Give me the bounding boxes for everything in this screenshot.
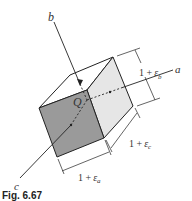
a-dim-ext-left (58, 159, 64, 174)
origin-label: Q (73, 95, 82, 109)
b-dim-line-top (135, 50, 141, 63)
b-axis-line (54, 22, 80, 84)
b-dim-ext-top (117, 48, 140, 56)
c-axis-dot (70, 124, 72, 126)
a-axis-label: a (175, 63, 181, 75)
c-dim-ext-top (135, 108, 140, 118)
a-dim-line (62, 152, 109, 171)
a-dim-label: 1 +εa (78, 172, 101, 185)
b-dim-ext-bot (137, 98, 160, 106)
c-dim-label: 1 +εc (129, 138, 152, 151)
a-axis-dot (109, 91, 111, 93)
b-dim-label: 1 +εb (139, 67, 162, 81)
b-dim-line-bot (145, 77, 155, 100)
figure-caption: Fig. 6.67 (2, 190, 42, 201)
deformed-cube-diagram: b a c Q 1 +εb 1 +εc 1 +εa Fig. 6.67 (0, 0, 192, 201)
b-axis-label: b (48, 10, 54, 24)
